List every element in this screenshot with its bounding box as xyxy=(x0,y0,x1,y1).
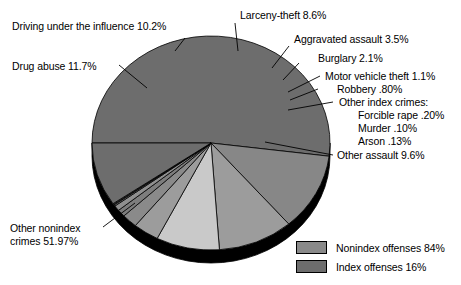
label-other-index-crimes-heading: Other index crimes: xyxy=(339,96,428,109)
label-arson: Arson .13% xyxy=(339,135,411,148)
legend-swatch-index-offenses xyxy=(296,260,327,273)
label-aggravated-assault: Aggravated assault 3.5% xyxy=(294,33,408,46)
chart-canvas: Driving under the influence 10.2% Drug a… xyxy=(0,0,461,285)
label-forcible-rape: Forcible rape .20% xyxy=(339,109,444,122)
label-other-nonindex-crimes-line1: Other nonindex xyxy=(10,222,80,234)
label-larceny-theft: Larceny-theft 8.6% xyxy=(240,9,326,22)
label-murder: Murder .10% xyxy=(339,122,417,135)
legend-item-nonindex-offenses: Nonindex offenses 84% xyxy=(296,238,445,257)
pie-slice-other-nonindex-crimes xyxy=(92,36,330,156)
legend-label-nonindex-offenses: Nonindex offenses 84% xyxy=(336,242,445,254)
legend-item-index-offenses: Index offenses 16% xyxy=(296,257,445,276)
chart-legend: Nonindex offenses 84% Index offenses 16% xyxy=(296,238,445,276)
label-robbery: Robbery .80% xyxy=(337,83,402,96)
label-driving-under-the-influence: Driving under the influence 10.2% xyxy=(12,20,166,33)
label-burglary: Burglary 2.1% xyxy=(318,52,383,65)
label-motor-vehicle-theft: Motor vehicle theft 1.1% xyxy=(325,70,435,83)
legend-label-index-offenses: Index offenses 16% xyxy=(336,261,426,273)
legend-swatch-nonindex-offenses xyxy=(296,241,327,254)
label-other-assault: Other assault 9.6% xyxy=(337,149,425,162)
label-other-nonindex-crimes-line2: crimes 51.97% xyxy=(10,235,78,247)
label-drug-abuse: Drug abuse 11.7% xyxy=(12,60,97,73)
